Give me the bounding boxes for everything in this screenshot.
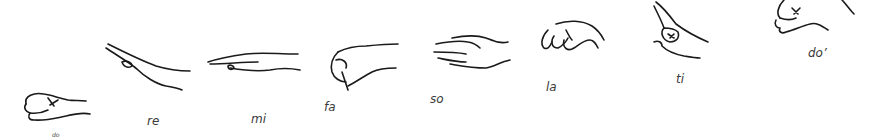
sign-label: ti <box>676 72 684 86</box>
sign-label: fa <box>324 100 336 114</box>
sign-label: do’ <box>808 46 827 60</box>
sign-do-high: do’ <box>772 0 872 70</box>
open-palm-hand-icon <box>432 34 522 74</box>
fist-hand-icon <box>18 88 98 128</box>
sign-mi: mi <box>206 48 302 128</box>
sign-la: la <box>538 18 618 98</box>
sign-label: re <box>147 114 159 128</box>
sign-label: mi <box>251 112 266 126</box>
sign-label: la <box>546 80 557 94</box>
thumb-down-hand-icon <box>326 42 406 97</box>
pointing-up-hand-icon <box>650 0 730 60</box>
fist-hand-high-icon <box>772 0 872 40</box>
sign-re: re <box>104 40 194 130</box>
sign-label: do <box>52 131 59 137</box>
sign-fa: fa <box>326 42 406 137</box>
sign-do: do <box>18 88 98 137</box>
flat-hand-angled-icon <box>104 40 194 95</box>
sign-so: so <box>432 34 522 104</box>
sign-ti: ti <box>650 0 730 90</box>
drooping-hand-icon <box>538 18 618 63</box>
sign-label: so <box>430 92 444 106</box>
flat-hand-horizontal-icon <box>206 48 302 78</box>
